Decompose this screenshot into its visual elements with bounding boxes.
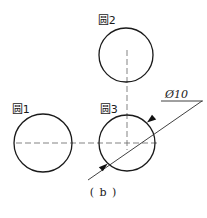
figure-caption: ( b ) [0, 186, 207, 199]
circle-1-label: 圆1 [12, 104, 29, 115]
dimension-arrow-end-icon [147, 115, 156, 123]
centerline-group [16, 50, 160, 150]
engineering-drawing-canvas: 圆1 圆2 圆3 Ø10 ( b ) [0, 0, 207, 218]
diameter-dimension-text: Ø10 [165, 89, 188, 100]
circle-3-label: 圆3 [100, 104, 117, 115]
circle-2-label: 圆2 [98, 15, 115, 26]
circle-2-outline [99, 28, 153, 82]
